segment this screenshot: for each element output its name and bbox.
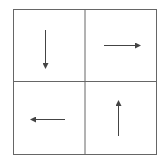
grid-diagram xyxy=(0,0,165,167)
